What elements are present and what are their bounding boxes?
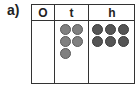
hundreds-counter	[118, 24, 129, 35]
hundreds-column: h	[89, 5, 135, 83]
hundreds-counter	[105, 36, 116, 47]
ones-column: O	[32, 5, 55, 83]
tens-counter	[60, 36, 71, 47]
hundreds-counter	[118, 36, 129, 47]
place-value-table: O t h	[31, 4, 135, 84]
ones-header: O	[32, 5, 54, 21]
hundreds-counter	[92, 24, 103, 35]
question-label: a)	[7, 2, 19, 18]
tens-counter	[72, 24, 83, 35]
tens-header: t	[55, 5, 88, 21]
tens-column: t	[55, 5, 89, 83]
tens-counter	[72, 36, 83, 47]
hundreds-header: h	[89, 5, 135, 21]
tens-counter	[60, 24, 71, 35]
tens-counter	[60, 48, 71, 59]
hundreds-counter	[105, 24, 116, 35]
hundreds-counter	[92, 36, 103, 47]
